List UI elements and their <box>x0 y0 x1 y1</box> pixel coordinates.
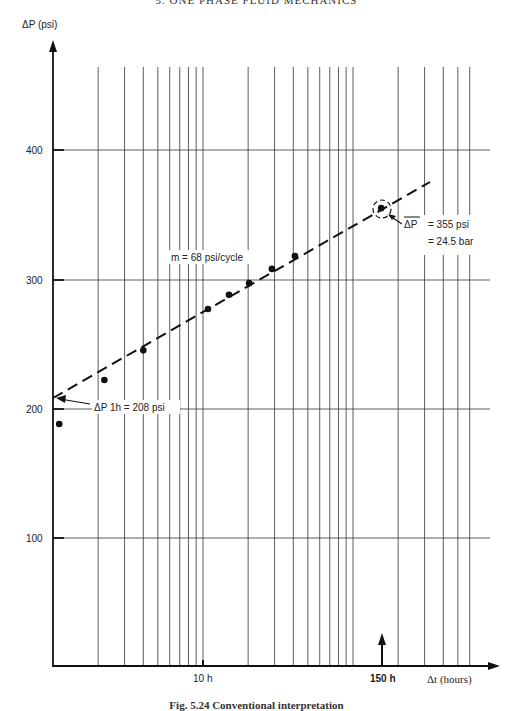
y-tick-200: 200 <box>26 404 43 415</box>
p1h-annotation: ΔP 1h = 208 psi <box>94 402 165 413</box>
y-axis-arrow-icon <box>49 40 57 52</box>
figure-caption: Fig. 5.24 Conventional interpretation <box>0 699 513 711</box>
pbar-symbol: ΔP <box>404 219 418 230</box>
data-point <box>292 253 299 260</box>
x-tick-10h: 10 h <box>193 673 212 684</box>
data-point <box>101 377 108 384</box>
data-point <box>205 306 212 313</box>
y-axis-label: ΔP (psi) <box>22 19 57 30</box>
pbar-bar: = 24.5 bar <box>428 236 474 247</box>
data-point <box>246 280 253 287</box>
data-point <box>269 266 276 273</box>
y-tick-300: 300 <box>26 275 43 286</box>
x-axis-label: Δt (hours) <box>427 673 472 686</box>
x-tick-150h: 150 h <box>370 673 396 684</box>
y-tick-100: 100 <box>26 533 43 544</box>
slope-annotation: m = 68 psi/cycle <box>171 252 243 263</box>
data-point <box>140 347 147 354</box>
data-point <box>378 205 385 212</box>
semilog-straight-line <box>53 182 430 398</box>
data-point <box>226 291 233 298</box>
data-points <box>56 205 385 427</box>
arrow-up-icon <box>378 633 386 645</box>
y-tick-400: 400 <box>26 145 43 156</box>
pbar-psi: = 355 psi <box>428 219 469 230</box>
x-axis-arrow-icon <box>488 662 500 670</box>
data-point <box>56 421 63 428</box>
vertical-gridlines <box>98 67 470 666</box>
